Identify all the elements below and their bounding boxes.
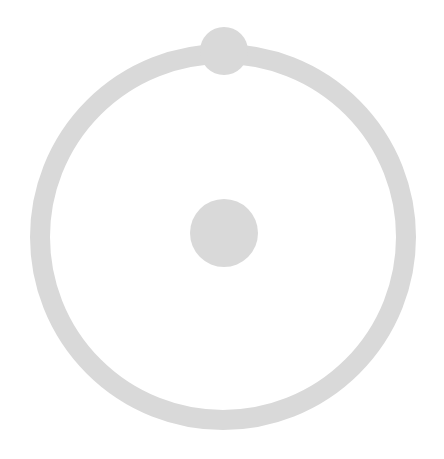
orbit-knob[interactable] [200,27,248,75]
orbit-diagram [0,0,444,459]
center-dot [190,199,258,267]
